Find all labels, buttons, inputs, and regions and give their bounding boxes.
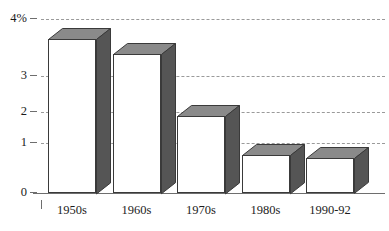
- bar-side-face: [95, 28, 111, 195]
- bar: [48, 28, 110, 193]
- bar-front-face: [242, 155, 290, 193]
- gridline-4: [41, 19, 385, 20]
- bar-chart: 4% 3 2 1 0 1950s1960s1970s1980s1990-92: [0, 0, 389, 231]
- bar: [177, 105, 239, 193]
- bar-side-face: [353, 147, 369, 195]
- y-tick-label-1: 1: [0, 136, 27, 149]
- x-axis-label: 1990-92: [292, 203, 368, 217]
- bar-front-face: [113, 54, 161, 193]
- y-tick-mark-4: [30, 18, 37, 19]
- bar: [242, 144, 304, 193]
- y-tick-label-0: 0: [0, 186, 27, 199]
- bar: [113, 43, 175, 193]
- y-tick-mark-3: [30, 75, 37, 76]
- bar: [306, 147, 368, 193]
- y-tick-label-3: 3: [0, 69, 27, 82]
- y-tick-label-4: 4%: [0, 12, 27, 25]
- y-tick-label-2: 2: [0, 105, 27, 118]
- bar-side-face: [224, 105, 240, 195]
- y-tick-mark-2: [30, 111, 37, 112]
- bar-front-face: [48, 39, 96, 193]
- bar-side-face: [289, 144, 305, 195]
- bar-front-face: [177, 116, 225, 193]
- y-tick-mark-1: [30, 142, 37, 143]
- axis-baseline: [33, 193, 385, 194]
- bar-front-face: [306, 158, 354, 193]
- plot-area: 4% 3 2 1 0 1950s1960s1970s1980s1990-92: [0, 0, 389, 231]
- bar-side-face: [160, 43, 176, 195]
